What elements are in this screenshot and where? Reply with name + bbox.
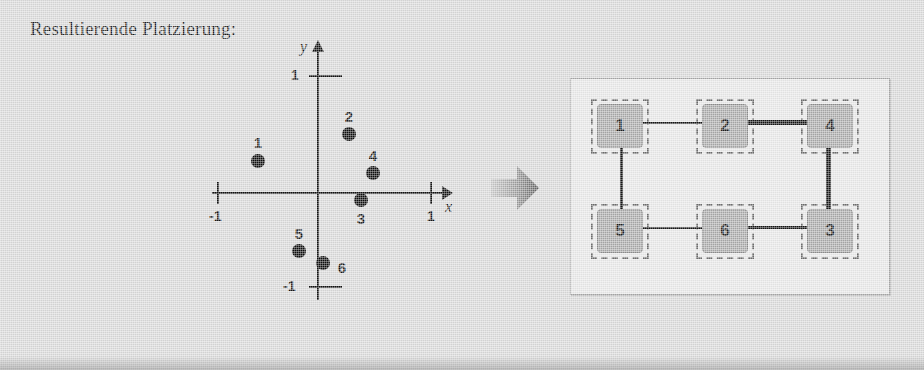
edge-6-3 (748, 226, 808, 229)
x-axis-line (212, 192, 444, 194)
data-point (342, 127, 356, 141)
data-point-label: 6 (338, 259, 346, 276)
x-tick-mark-pos1 (430, 182, 432, 204)
y-tick-label-pos1: 1 (291, 67, 299, 83)
data-point-label: 5 (295, 225, 303, 242)
grid-node[interactable]: 6 (702, 209, 748, 253)
y-tick-mark-neg1 (309, 286, 342, 288)
y-axis-arrow-icon (312, 40, 324, 52)
data-point-label: 1 (254, 134, 262, 151)
edge-2-4 (748, 120, 808, 125)
slide-canvas: Resultierende Platzierung: y x -1 1 1 -1… (0, 0, 924, 370)
data-point-label: 3 (357, 210, 365, 227)
data-point (354, 193, 368, 207)
edge-5-6 (643, 227, 703, 229)
data-point (366, 166, 380, 180)
data-point (316, 256, 330, 270)
transition-arrow-icon (489, 163, 541, 213)
edge-1-2 (643, 122, 703, 124)
x-tick-label-pos1: 1 (427, 208, 435, 224)
data-point (292, 244, 306, 258)
data-point-label: 4 (369, 147, 377, 164)
placement-grid-panel: 1 2 4 5 6 3 (570, 78, 890, 295)
grid-node[interactable]: 1 (597, 104, 643, 148)
data-point (251, 154, 265, 168)
x-axis-label: x (445, 198, 452, 216)
grid-node[interactable]: 3 (807, 209, 853, 253)
grid-node[interactable]: 2 (702, 104, 748, 148)
scatter-plot: y x -1 1 1 -1 1 2 3 4 5 6 (190, 30, 460, 320)
grid-node[interactable]: 4 (807, 104, 853, 148)
x-tick-mark-neg1 (217, 182, 219, 204)
grid-node[interactable]: 5 (597, 209, 643, 253)
x-tick-label-neg1: -1 (209, 208, 221, 224)
data-point-label: 2 (345, 108, 353, 125)
y-tick-mark-pos1 (309, 75, 342, 77)
y-axis-label: y (300, 38, 307, 56)
y-tick-label-neg1: -1 (283, 278, 295, 294)
